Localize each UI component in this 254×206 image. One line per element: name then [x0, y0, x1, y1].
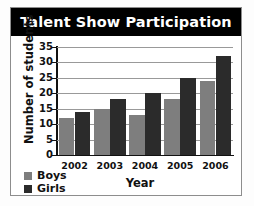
- y-axis-tick: [52, 47, 57, 48]
- y-axis-tick-label: 5: [31, 135, 53, 145]
- legend-item-girls: Girls: [24, 182, 67, 195]
- y-axis-tick-label: 25: [31, 73, 53, 83]
- y-axis-tick-labels: 05101520253035: [31, 47, 53, 155]
- bar-girls-2002: [75, 112, 91, 155]
- bar-boys-2004: [129, 115, 145, 155]
- y-axis-tick-label: 10: [31, 119, 53, 129]
- bar-boys-2003: [94, 109, 110, 155]
- x-axis-tick-label: 2003: [90, 160, 130, 171]
- legend-label-girls: Girls: [37, 183, 66, 195]
- y-axis-tick: [52, 140, 57, 141]
- bar-boys-2005: [164, 99, 180, 155]
- legend-swatch-girls-icon: [24, 185, 32, 193]
- chart-title: Talent Show Participation: [20, 14, 232, 30]
- gridline: [57, 62, 233, 63]
- y-axis-tick: [52, 93, 57, 94]
- plot-inner: [57, 47, 233, 155]
- y-axis-tick-label: 20: [31, 88, 53, 98]
- y-axis-tick: [52, 109, 57, 110]
- x-axis-tick-label: 2005: [160, 160, 200, 171]
- chart-figure: Talent Show Participation Number of stud…: [0, 0, 254, 206]
- x-axis-label: Year: [80, 176, 200, 190]
- y-axis-tick-label: 15: [31, 104, 53, 114]
- x-axis-tick-label: 2004: [125, 160, 165, 171]
- bar-girls-2005: [180, 78, 196, 155]
- plot-area: [57, 47, 233, 155]
- bar-boys-2006: [200, 81, 216, 155]
- x-axis-tick-label: 2006: [195, 160, 235, 171]
- y-axis-tick-label: 0: [31, 150, 53, 160]
- y-axis-tick: [52, 62, 57, 63]
- bar-girls-2004: [145, 93, 161, 155]
- chart-legend: Boys Girls: [24, 169, 67, 195]
- legend-label-boys: Boys: [37, 170, 67, 182]
- gridline: [57, 47, 233, 48]
- y-axis-tick: [52, 155, 57, 156]
- chart-title-banner: Talent Show Participation: [11, 8, 241, 36]
- y-axis-tick: [52, 78, 57, 79]
- gridline: [57, 78, 233, 79]
- bar-girls-2003: [110, 99, 126, 155]
- y-axis-tick: [52, 124, 57, 125]
- bar-boys-2002: [59, 118, 75, 155]
- y-axis-tick-label: 30: [31, 57, 53, 67]
- legend-swatch-boys-icon: [24, 172, 32, 180]
- y-axis-tick-label: 35: [31, 42, 53, 52]
- legend-item-boys: Boys: [24, 169, 67, 182]
- bar-girls-2006: [216, 56, 232, 155]
